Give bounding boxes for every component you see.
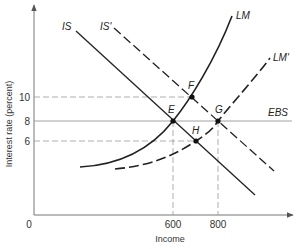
point-g (215, 118, 220, 123)
point-label-e: E (168, 104, 175, 115)
y-tick-6: 6 (24, 136, 30, 147)
y-tick-10: 10 (19, 92, 31, 103)
lm-prime-curve (115, 58, 270, 169)
point-label-h: H (192, 125, 200, 136)
label-ebs: EBS (268, 107, 288, 118)
point-f (189, 94, 194, 99)
point-label-f: F (188, 80, 195, 91)
x-axis-label: Income (155, 234, 185, 244)
y-axis-label: Interest rate (percent) (4, 81, 14, 168)
label-is: IS (62, 21, 72, 32)
point-label-g: G (215, 104, 223, 115)
is-lm-diagram: E F G H IS IS' LM LM' EBS 10 8 6 0 600 8… (0, 0, 300, 249)
is-curve (76, 31, 255, 195)
x-origin: 0 (26, 219, 32, 230)
y-tick-8: 8 (24, 116, 30, 127)
point-e (170, 118, 175, 123)
label-lm-prime: LM' (273, 52, 290, 63)
x-tick-600: 600 (165, 219, 182, 230)
label-is-prime: IS' (100, 21, 112, 32)
label-lm: LM (236, 10, 251, 21)
point-h (193, 138, 198, 143)
x-tick-800: 800 (210, 219, 227, 230)
is-prime-curve (114, 28, 274, 171)
lm-curve (80, 16, 232, 167)
